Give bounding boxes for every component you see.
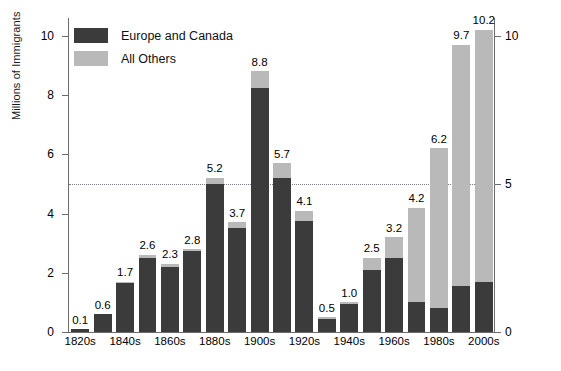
right-axis-tick — [495, 36, 501, 37]
bar-column[interactable] — [71, 329, 89, 332]
x-axis-tick-label: 1820s — [65, 336, 96, 348]
bar-column[interactable] — [161, 264, 179, 332]
left-axis-tick — [62, 154, 68, 155]
bar-segment-europe-and-canada — [452, 286, 470, 332]
x-axis-tick-label: 1940s — [334, 336, 365, 348]
bar-value-label: 6.2 — [431, 134, 447, 146]
left-axis-tick-label: 10 — [30, 30, 54, 42]
x-axis-tick-label: 1920s — [289, 336, 320, 348]
x-axis-tick-label: 1840s — [109, 336, 140, 348]
x-axis-tick-label: 1960s — [378, 336, 409, 348]
bar-value-label: 0.5 — [319, 303, 335, 315]
bar-column[interactable] — [228, 222, 246, 332]
bar-value-label: 10.2 — [473, 15, 495, 27]
bar-column[interactable] — [452, 45, 470, 332]
bar-segment-all-others — [385, 237, 403, 258]
right-axis-tick-label: 10 — [505, 30, 529, 42]
left-axis-tick — [62, 36, 68, 37]
x-axis-tick-labels: 1820s1840s1860s1880s1900s1920s1940s1960s… — [69, 336, 495, 356]
bar-value-label: 2.6 — [139, 240, 155, 252]
bar-segment-europe-and-canada — [363, 270, 381, 332]
bar-segment-all-others — [295, 211, 313, 221]
bar-value-label: 2.5 — [364, 243, 380, 255]
bar-value-label: 9.7 — [453, 30, 469, 42]
bar-column[interactable] — [251, 71, 269, 332]
x-axis-tick-label: 1980s — [423, 336, 454, 348]
left-axis-tick — [62, 332, 68, 333]
bar-value-label: 8.8 — [252, 57, 268, 69]
bar-value-label: 1.7 — [117, 267, 133, 279]
bar-column[interactable] — [318, 317, 336, 332]
x-axis-tick-label: 1900s — [244, 336, 275, 348]
bar-segment-europe-and-canada — [139, 258, 157, 332]
right-axis-tick — [495, 184, 501, 185]
bar-segment-all-others — [430, 148, 448, 308]
bar-column[interactable] — [206, 178, 224, 332]
bar-segment-europe-and-canada — [183, 251, 201, 332]
bar-segment-europe-and-canada — [206, 184, 224, 332]
left-axis-tick-label: 4 — [30, 208, 54, 220]
legend-label-europe-and-canada: Europe and Canada — [121, 29, 233, 43]
bar-segment-europe-and-canada — [295, 221, 313, 332]
bar-segment-europe-and-canada — [71, 329, 89, 332]
bar-value-label: 3.7 — [229, 208, 245, 220]
bar-column[interactable] — [183, 249, 201, 332]
legend-item-europe-and-canada: Europe and Canada — [74, 28, 233, 43]
right-axis-tick — [495, 332, 501, 333]
bar-column[interactable] — [139, 255, 157, 332]
bar-value-label: 4.1 — [296, 196, 312, 208]
left-axis-tick-label: 6 — [30, 148, 54, 160]
legend-swatch-europe-and-canada — [74, 28, 108, 43]
bar-column[interactable] — [385, 237, 403, 332]
y-axis-title: Millions of Immigrants — [10, 0, 22, 120]
bar-value-label: 2.8 — [184, 235, 200, 247]
bar-value-label: 1.0 — [341, 288, 357, 300]
bar-value-label: 2.3 — [162, 249, 178, 261]
left-axis-tick-label: 0 — [30, 326, 54, 338]
bar-segment-all-others — [363, 258, 381, 270]
bar-column[interactable] — [295, 211, 313, 332]
bar-segment-all-others — [452, 45, 470, 286]
bar-segment-europe-and-canada — [430, 308, 448, 332]
bar-column[interactable] — [273, 163, 291, 332]
left-axis-tick — [62, 273, 68, 274]
bar-segment-europe-and-canada — [273, 178, 291, 332]
bar-segment-all-others — [273, 163, 291, 178]
bar-value-label: 0.6 — [95, 300, 111, 312]
legend-swatch-all-others — [74, 51, 108, 66]
x-axis-tick-label: 1860s — [154, 336, 185, 348]
right-axis-tick-label: 5 — [505, 178, 529, 190]
bar-segment-europe-and-canada — [116, 283, 134, 332]
immigration-bar-chart: Millions of Immigrants 1086420 1050 0.10… — [0, 0, 561, 371]
bar-segment-europe-and-canada — [475, 282, 493, 332]
left-axis-tick-label: 8 — [30, 89, 54, 101]
bar-column[interactable] — [363, 258, 381, 332]
bar-segment-all-others — [251, 71, 269, 87]
bar-column[interactable] — [408, 208, 426, 332]
bar-column[interactable] — [116, 282, 134, 332]
chart-legend: Europe and Canada All Others — [74, 28, 233, 74]
bar-value-label: 4.2 — [409, 193, 425, 205]
bar-segment-all-others — [475, 30, 493, 282]
bar-column[interactable] — [475, 30, 493, 332]
bar-segment-all-others — [408, 208, 426, 303]
bar-segment-europe-and-canada — [408, 302, 426, 332]
left-axis-tick-label: 2 — [30, 267, 54, 279]
bar-value-label: 5.7 — [274, 149, 290, 161]
bar-column[interactable] — [94, 314, 112, 332]
bar-segment-europe-and-canada — [340, 304, 358, 332]
left-axis-tick — [62, 214, 68, 215]
bar-segment-europe-and-canada — [228, 228, 246, 332]
right-axis-tick-label: 0 — [505, 326, 529, 338]
bar-value-label: 5.2 — [207, 163, 223, 175]
bar-segment-europe-and-canada — [318, 319, 336, 332]
bar-segment-europe-and-canada — [94, 314, 112, 332]
legend-item-all-others: All Others — [74, 51, 233, 66]
bar-segment-europe-and-canada — [385, 258, 403, 332]
bar-value-label: 3.2 — [386, 223, 402, 235]
bar-column[interactable] — [340, 302, 358, 332]
legend-label-all-others: All Others — [121, 52, 176, 66]
bar-column[interactable] — [430, 148, 448, 332]
left-axis-tick — [62, 95, 68, 96]
bar-segment-europe-and-canada — [161, 267, 179, 332]
